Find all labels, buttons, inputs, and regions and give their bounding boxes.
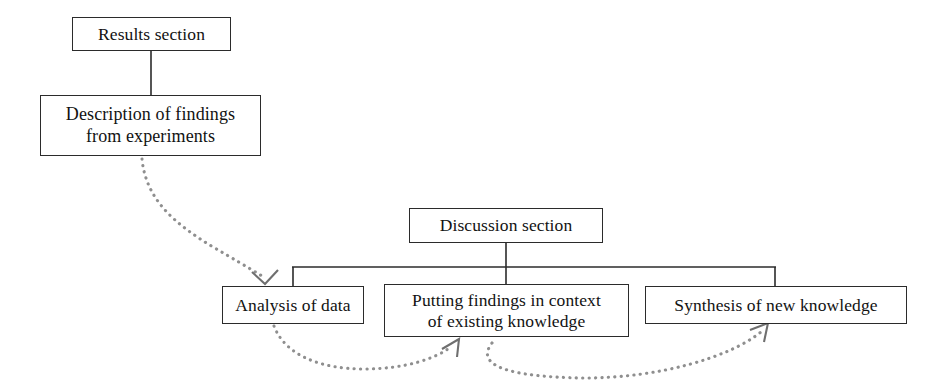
node-results-section-label: Results section (92, 24, 211, 45)
dotted-arrow-description-to-analysis (142, 159, 262, 276)
dotted-arrow-context-to-synthesis (487, 332, 761, 378)
node-description-of-findings[interactable]: Description of findings from experiments (40, 95, 261, 156)
flowchart-diagram: Results section Description of findings … (0, 0, 946, 392)
arrowhead-analysis-to-context (442, 339, 459, 357)
node-analysis-of-data-label: Analysis of data (229, 295, 356, 316)
node-discussion-section[interactable]: Discussion section (409, 208, 603, 243)
node-analysis-of-data[interactable]: Analysis of data (222, 286, 364, 324)
node-results-section[interactable]: Results section (72, 17, 231, 51)
node-description-of-findings-label: Description of findings from experiments (60, 104, 241, 146)
node-putting-findings-in-context-label: Putting findings in context of existing … (406, 290, 607, 331)
node-synthesis-of-new-knowledge-label: Synthesis of new knowledge (668, 295, 883, 316)
node-synthesis-of-new-knowledge[interactable]: Synthesis of new knowledge (645, 286, 907, 324)
node-discussion-section-label: Discussion section (434, 215, 579, 236)
node-putting-findings-in-context[interactable]: Putting findings in context of existing … (384, 284, 629, 337)
